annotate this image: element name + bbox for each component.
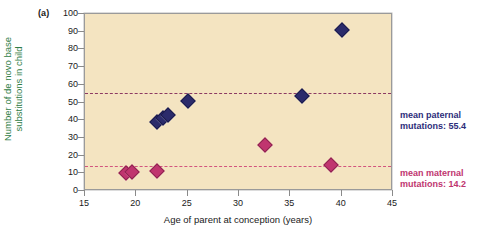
legend-mean-maternal: mean maternal mutations: 14.2 xyxy=(400,168,466,190)
data-point-maternal xyxy=(257,137,273,153)
x-tick-mark xyxy=(341,190,342,196)
data-point-paternal xyxy=(180,93,196,109)
x-tick-label: 40 xyxy=(326,198,356,208)
y-tick-label: 50 xyxy=(52,97,78,107)
x-tick-mark xyxy=(392,190,393,196)
reference-line-mean-paternal xyxy=(85,93,391,94)
y-tick-label: 40 xyxy=(52,114,78,124)
y-tick-mark xyxy=(78,102,84,103)
x-tick-label: 15 xyxy=(69,198,99,208)
y-tick-mark xyxy=(78,13,84,14)
y-tick-label: 90 xyxy=(52,26,78,36)
x-axis-title: Age of parent at conception (years) xyxy=(84,214,392,225)
y-axis-title-line-2: substitutions in child xyxy=(13,14,24,164)
x-tick-mark xyxy=(135,190,136,196)
x-tick-label: 20 xyxy=(120,198,150,208)
x-tick-mark xyxy=(187,190,188,196)
x-tick-mark xyxy=(289,190,290,196)
x-tick-label: 30 xyxy=(223,198,253,208)
y-tick-mark xyxy=(78,66,84,67)
legend-mean-maternal-line-2: mutations: 14.2 xyxy=(400,179,466,190)
y-tick-label: 0 xyxy=(52,185,78,195)
y-axis-title-line-1: Number of de novo base xyxy=(2,14,13,164)
data-point-paternal xyxy=(294,89,310,105)
y-tick-label: 100 xyxy=(52,8,78,18)
y-tick-label: 80 xyxy=(52,43,78,53)
y-tick-label: 20 xyxy=(52,150,78,160)
y-tick-mark xyxy=(78,172,84,173)
y-tick-mark xyxy=(78,119,84,120)
y-tick-label: 10 xyxy=(52,167,78,177)
x-tick-label: 35 xyxy=(274,198,304,208)
x-tick-label: 25 xyxy=(172,198,202,208)
y-tick-mark xyxy=(78,190,84,191)
x-tick-mark xyxy=(84,190,85,196)
y-tick-label: 30 xyxy=(52,132,78,142)
plot-inner xyxy=(85,14,391,189)
legend-mean-paternal-line-2: mutations: 55.4 xyxy=(400,121,466,132)
x-tick-mark xyxy=(238,190,239,196)
figure-panel-a: (a) 0102030405060708090100 1520253035404… xyxy=(0,0,488,239)
y-axis-title: Number of de novo base substitutions in … xyxy=(2,14,24,164)
y-tick-label: 60 xyxy=(52,79,78,89)
y-tick-mark xyxy=(78,31,84,32)
y-tick-mark xyxy=(78,48,84,49)
legend-mean-paternal-line-1: mean paternal xyxy=(400,110,466,121)
y-tick-label: 70 xyxy=(52,61,78,71)
y-tick-mark xyxy=(78,84,84,85)
y-tick-mark xyxy=(78,137,84,138)
x-tick-label: 45 xyxy=(377,198,407,208)
data-point-paternal xyxy=(334,22,350,38)
data-point-maternal xyxy=(324,158,340,174)
plot-area xyxy=(84,13,392,190)
legend-mean-paternal: mean paternal mutations: 55.4 xyxy=(400,110,466,132)
legend-mean-maternal-line-1: mean maternal xyxy=(400,168,466,179)
y-tick-mark xyxy=(78,155,84,156)
